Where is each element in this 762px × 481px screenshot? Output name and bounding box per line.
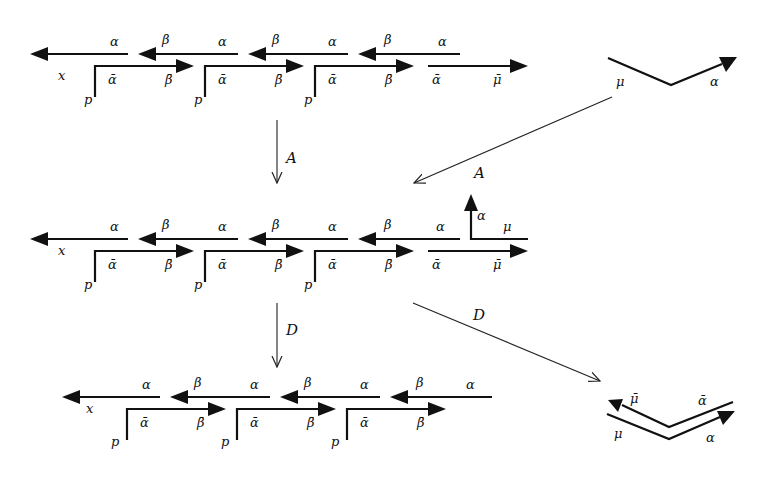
- label-alpha: α: [436, 219, 445, 234]
- arrowhead-icon: [176, 59, 194, 73]
- label-x: x: [58, 68, 66, 83]
- label-map-A: A: [284, 149, 297, 167]
- label-beta: β: [161, 217, 170, 232]
- label-alpha-bar: ᾱ: [250, 415, 259, 430]
- label-alpha: α: [328, 34, 337, 49]
- row-3-labels: α x β α β α β α ᾱ β̄ ᾱ β̄ ᾱ β̄ p p p: [86, 375, 475, 449]
- label-beta-bar: β̄: [416, 415, 425, 430]
- label-beta: β: [383, 32, 392, 47]
- label-alpha: α: [110, 219, 119, 234]
- arrowhead-icon: [280, 390, 298, 404]
- label-beta: β: [383, 217, 392, 232]
- label-beta-bar: β̄: [164, 72, 173, 87]
- arrowhead-icon: [138, 232, 156, 246]
- label-beta: β: [303, 375, 312, 390]
- label-beta: β: [193, 375, 202, 390]
- label-beta-bar: β̄: [384, 72, 393, 87]
- label-alpha: α: [360, 377, 369, 392]
- label-mu: μ: [503, 219, 511, 234]
- label-alpha: α: [438, 34, 447, 49]
- label-alpha: α: [142, 377, 151, 392]
- label-alpha: α: [706, 430, 715, 445]
- label-alpha-bar: ᾱ: [360, 415, 369, 430]
- label-alpha: α: [328, 219, 337, 234]
- row-1-labels: α x β α β α β α ᾱ β̄ ᾱ β̄ ᾱ β̄ ᾱ μ̄ p p …: [58, 32, 501, 107]
- label-beta: β: [271, 32, 280, 47]
- arrowhead-icon: [396, 244, 414, 258]
- map-A-vertical: A: [277, 120, 297, 183]
- label-beta-bar: β̄: [274, 257, 283, 272]
- label-p: p: [221, 434, 230, 449]
- label-alpha-bar: ᾱ: [108, 72, 117, 87]
- label-mu: μ: [616, 74, 624, 89]
- arrowhead-icon: [358, 47, 376, 61]
- label-mu-bar: μ̄: [493, 72, 501, 87]
- label-map-A: A: [472, 164, 485, 182]
- label-alpha-bar: ᾱ: [432, 72, 441, 87]
- label-beta-bar: β̄: [384, 257, 393, 272]
- row-3: [62, 390, 492, 440]
- label-alpha: α: [466, 377, 475, 392]
- label-alpha-bar: ᾱ: [432, 257, 441, 272]
- arrowhead-icon: [510, 244, 528, 258]
- label-alpha-up: α: [477, 208, 486, 223]
- arrowhead-icon: [286, 59, 304, 73]
- map-D-vertical: D: [277, 303, 298, 367]
- label-p: p: [84, 92, 93, 107]
- arrowhead-up-icon: [464, 194, 478, 211]
- label-alpha-bar: ᾱ: [218, 72, 227, 87]
- label-x: x: [86, 401, 94, 416]
- label-alpha: α: [218, 219, 227, 234]
- map-A-diagonal: A: [414, 97, 612, 183]
- label-p: p: [194, 277, 203, 292]
- arrowhead-icon: [176, 244, 194, 258]
- label-alpha-bar: ᾱ: [108, 257, 117, 272]
- label-beta: β: [415, 375, 424, 390]
- label-map-D: D: [472, 306, 485, 324]
- arrowhead-icon: [318, 402, 336, 416]
- label-beta-bar: β̄: [274, 72, 283, 87]
- arrowhead-icon: [396, 59, 414, 73]
- arrowhead-icon: [62, 390, 80, 404]
- label-alpha-bar: ᾱ: [328, 72, 337, 87]
- label-p: p: [331, 434, 340, 449]
- label-beta-bar: β̄: [306, 415, 315, 430]
- label-p: p: [304, 277, 313, 292]
- label-alpha-bar: ᾱ: [140, 415, 149, 430]
- label-beta-bar: β̄: [164, 257, 173, 272]
- arrowhead-icon: [208, 402, 226, 416]
- arrowhead-icon: [358, 232, 376, 246]
- arrowhead-icon: [30, 232, 48, 246]
- label-mu: μ: [614, 426, 622, 441]
- label-alpha: α: [250, 377, 259, 392]
- side-figure-top: μ α: [608, 57, 737, 89]
- label-alpha: α: [710, 74, 719, 89]
- arrowhead-icon: [428, 402, 446, 416]
- arrowhead-icon: [248, 47, 266, 61]
- arrowhead-icon: [170, 390, 188, 404]
- map-D-diagonal: D: [413, 303, 600, 381]
- arrowhead-icon: [390, 390, 408, 404]
- diagram-canvas: α x β α β α β α ᾱ β̄ ᾱ β̄ ᾱ β̄ ᾱ μ̄ p p …: [0, 0, 762, 481]
- label-alpha-bar: ᾱ: [698, 393, 707, 408]
- label-beta: β: [161, 32, 170, 47]
- arrowhead-icon: [138, 47, 156, 61]
- label-alpha: α: [110, 34, 119, 49]
- label-mu-bar: μ̄: [493, 257, 501, 272]
- label-mu-bar: μ̄: [630, 391, 638, 406]
- arrowhead-icon: [248, 232, 266, 246]
- label-map-D: D: [285, 321, 298, 339]
- label-x: x: [58, 243, 66, 258]
- label-alpha-bar: ᾱ: [218, 257, 227, 272]
- label-p: p: [111, 434, 120, 449]
- arrowhead-icon: [286, 244, 304, 258]
- label-alpha: α: [218, 34, 227, 49]
- label-p: p: [194, 92, 203, 107]
- side-figure-bottom: [607, 399, 735, 439]
- label-beta-bar: β̄: [196, 415, 205, 430]
- label-alpha-bar: ᾱ: [328, 257, 337, 272]
- label-p: p: [304, 92, 313, 107]
- label-beta: β: [271, 217, 280, 232]
- label-p: p: [84, 277, 93, 292]
- arrowhead-icon: [30, 47, 48, 61]
